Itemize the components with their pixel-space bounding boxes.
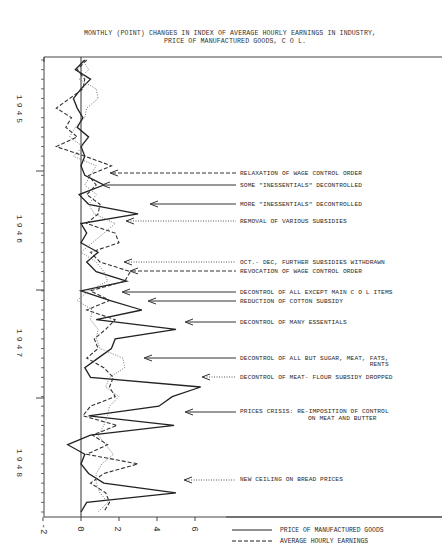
- annotation: DECONTROL OF ALL BUT SUGAR, MEAT, FATS, …: [240, 355, 389, 368]
- annotation: REVOCATION OF WAGE CONTROL ORDER: [240, 268, 362, 275]
- legend-entry-hourly-earnings: AVERAGE HOURLY EARNINGS: [280, 538, 368, 545]
- x-tick-label: 6: [189, 526, 199, 531]
- annotation: PRICES CRISIS: RE-IMPOSITION OF CONTROL …: [240, 408, 389, 422]
- annotation: REDUCTION OF COTTON SUBSIDY: [240, 298, 343, 305]
- annotation-line2: RENTS: [240, 361, 389, 368]
- annotation: MORE "INESSENTIALS" DECONTROLLED: [240, 201, 362, 208]
- annotation-line1: PRICES CRISIS: RE-IMPOSITION OF CONTROL: [240, 408, 389, 415]
- arrowhead-icon: [124, 259, 132, 265]
- annotation: REMOVAL OF VARIOUS SUBSIDIES: [240, 218, 347, 225]
- annotation: DECONTROL OF MANY ESSENTIALS: [240, 319, 347, 326]
- x-tick-label: 4: [151, 526, 161, 531]
- x-tick-label: 0: [75, 526, 85, 531]
- annotation: SOME "INESSENTIALS" DECONTROLLED: [240, 182, 362, 189]
- annotation: NEW CEILING ON BREAD PRICES: [240, 476, 343, 483]
- legend-entry-manufactured-goods: PRICE OF MANUFACTURED GOODS: [280, 527, 384, 534]
- x-tick-label: 2: [112, 526, 122, 531]
- year-label-1947: 1947: [15, 329, 24, 360]
- chart-plot: [0, 0, 442, 548]
- arrowhead-icon: [184, 477, 192, 483]
- year-label-1946: 1946: [15, 215, 24, 246]
- year-label-1948: 1948: [15, 449, 24, 480]
- annotation-line2: ON MEAT AND BUTTER: [240, 415, 389, 422]
- annotation-line1: DECONTROL OF ALL BUT SUGAR, MEAT, FATS,: [240, 355, 389, 362]
- arrowhead-icon: [126, 218, 134, 224]
- arrowhead-icon: [202, 374, 210, 380]
- year-label-1945: 1945: [15, 95, 24, 126]
- series-solid: [68, 60, 201, 512]
- x-tick-label: -2: [38, 524, 48, 535]
- annotation: RELAXATION OF WAGE CONTROL ORDER: [240, 170, 362, 177]
- annotation: DECONTROL OF ALL EXCEPT MAIN C O L ITEMS: [240, 289, 393, 296]
- annotation: DECONTROL OF MEAT- FLOUR SUBSIDY DROPPED: [240, 374, 393, 381]
- annotation: OCT.- DEC, FURTHER SUBSIDIES WITHDRAWN: [240, 259, 385, 266]
